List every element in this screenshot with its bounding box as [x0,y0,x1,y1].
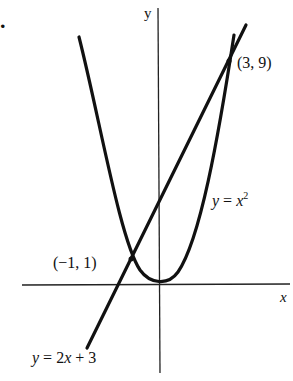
line-label: y = 2x + 3 [32,350,96,366]
point-label-neg1-1: (−1, 1) [53,255,97,271]
x-axis-label: x [280,290,287,305]
line-curve [87,25,246,348]
x-axis [22,284,290,285]
parabola-curve [79,35,234,282]
figure-marker: . [0,10,6,32]
intersection-point-neg1-1 [129,257,134,262]
intersection-point-3-9 [227,59,232,64]
parabola-label-exp: 2 [243,190,248,201]
line-label-rest: + 3 [71,349,96,366]
line-label-mid: = 2 [39,349,64,366]
parabola-label: y = x2 [212,193,248,209]
parabola-label-eq: = [219,192,236,209]
y-axis [158,8,160,373]
y-axis-label: y [144,6,152,21]
point-label-3-9: (3, 9) [237,55,272,71]
